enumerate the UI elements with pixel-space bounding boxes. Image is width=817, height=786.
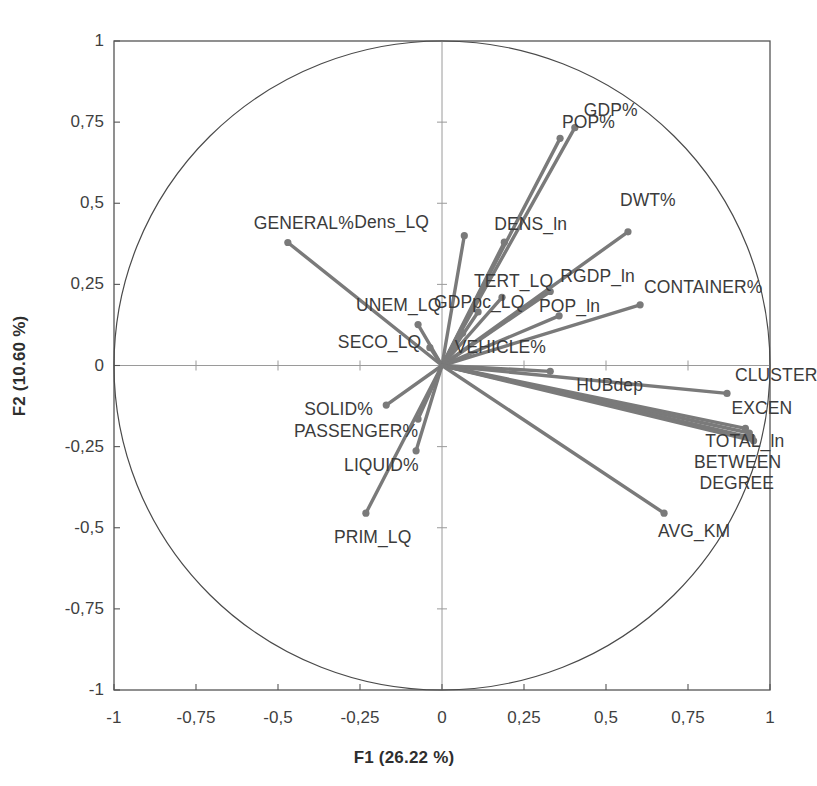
variable-label-degree: DEGREE (700, 475, 775, 493)
y-tick-label: 0,75 (34, 112, 104, 132)
point-dens-lq (461, 232, 468, 239)
point-dwt (624, 228, 631, 235)
x-axis-title: F1 (26.22 %) (0, 748, 808, 768)
point-liquid (412, 447, 419, 454)
point-vehicle (459, 329, 466, 336)
variable-label-general: GENERAL% (254, 215, 354, 233)
variable-label-tert-lq: TERT_LQ (474, 273, 553, 291)
x-tick-label: 1 (730, 708, 810, 728)
variable-label-rgdp-ln: RGDP_ln (560, 268, 635, 286)
variable-label-total-ln: TOTAL_ln (705, 433, 784, 451)
y-tick-label: 0 (34, 356, 104, 376)
variable-label-liquid: LIQUID% (344, 457, 419, 475)
variable-label-passenger: PASSENGER% (294, 423, 418, 441)
point-prim-lq (362, 510, 369, 517)
y-tick-label: -0,25 (34, 437, 104, 457)
variable-label-avg-km: AVG_KM (658, 523, 730, 541)
x-tick-label: 0,25 (484, 708, 564, 728)
point-cluster (723, 390, 730, 397)
variable-label-pop-ln: POP_ln (539, 298, 600, 316)
variable-label-pop: POP% (562, 114, 615, 132)
point-seco-lq (426, 344, 433, 351)
variable-label-gdppc-lq: GDPpc_LQ (434, 294, 524, 312)
x-tick-label: -1 (74, 708, 154, 728)
variable-label-hubdep: HUBdep (576, 377, 643, 395)
point-avg-km (660, 510, 667, 517)
y-axis-title: F2 (10.60 %) (10, 286, 30, 446)
x-tick-label: -0,25 (320, 708, 400, 728)
point-container (637, 301, 644, 308)
variable-label-excen: EXCEN (731, 400, 792, 418)
variable-label-seco-lq: SECO_LQ (338, 334, 421, 352)
variable-label-solid: SOLID% (304, 401, 373, 419)
y-tick-label: 0,25 (34, 274, 104, 294)
y-tick-label: 1 (34, 31, 104, 51)
variable-label-dwt: DWT% (620, 192, 676, 210)
variable-label-dens-ln: DENS_ln (494, 216, 567, 234)
y-tick-label: -1 (34, 680, 104, 700)
variable-label-vehicle: VEHICLE% (455, 339, 546, 357)
variable-label-between: BETWEEN (694, 454, 781, 472)
variable-label-unem-lq: UNEM_LQ (356, 297, 441, 315)
point-solid (383, 401, 390, 408)
x-tick-label: -0,5 (238, 708, 318, 728)
x-tick-label: -0,75 (156, 708, 236, 728)
point-hubdep (547, 368, 554, 375)
y-tick-label: -0,75 (34, 599, 104, 619)
point-dens-ln (501, 239, 508, 246)
x-tick-label: 0,5 (566, 708, 646, 728)
point-unem-lq (414, 321, 421, 328)
y-tick-label: 0,5 (34, 193, 104, 213)
point-general (284, 239, 291, 246)
x-tick-label: 0 (402, 708, 482, 728)
point-pop (556, 135, 563, 142)
y-tick-label: -0,5 (34, 518, 104, 538)
x-tick-label: 0,75 (648, 708, 728, 728)
variable-label-dens-lq: Dens_LQ (354, 214, 429, 232)
variable-label-prim-lq: PRIM_LQ (334, 529, 412, 547)
variable-label-container: CONTAINER% (644, 279, 762, 297)
variable-label-cluster: CLUSTER (735, 367, 817, 385)
